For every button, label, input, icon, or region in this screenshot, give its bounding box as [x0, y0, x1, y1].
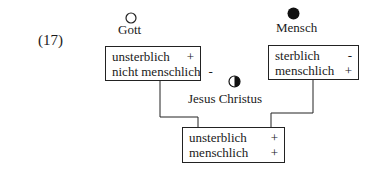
- feature-row: unsterblich +: [189, 130, 278, 145]
- filled-circle-icon: [287, 7, 300, 20]
- gott-feature-box: unsterblich + nicht menschlich -: [105, 46, 201, 81]
- feature-row: menschlich +: [275, 63, 352, 78]
- jesus-label: Jesus Christus: [188, 91, 262, 107]
- feature-row: menschlich +: [189, 145, 278, 160]
- gott-label: Gott: [118, 22, 141, 38]
- mensch-label: Mensch: [276, 20, 317, 36]
- feature-value: +: [345, 63, 352, 78]
- feature-name: sterblich: [275, 48, 320, 63]
- half-filled-circle-icon: [228, 75, 241, 88]
- feature-row: nicht menschlich -: [112, 64, 194, 79]
- jesus-feature-box: unsterblich + menschlich +: [182, 127, 285, 163]
- feature-value: +: [187, 49, 194, 64]
- feature-name: nicht menschlich: [112, 64, 200, 79]
- mensch-feature-box: sterblich - menschlich +: [268, 45, 359, 80]
- feature-name: menschlich: [275, 63, 334, 78]
- feature-name: unsterblich: [189, 130, 247, 145]
- feature-value: +: [271, 130, 278, 145]
- feature-name: menschlich: [189, 145, 248, 160]
- feature-value: +: [271, 145, 278, 160]
- feature-row: sterblich -: [275, 48, 352, 63]
- feature-value: -: [208, 64, 212, 79]
- feature-name: unsterblich: [112, 49, 170, 64]
- example-number: (17): [38, 32, 63, 49]
- feature-value: -: [348, 48, 352, 63]
- feature-row: unsterblich +: [112, 49, 194, 64]
